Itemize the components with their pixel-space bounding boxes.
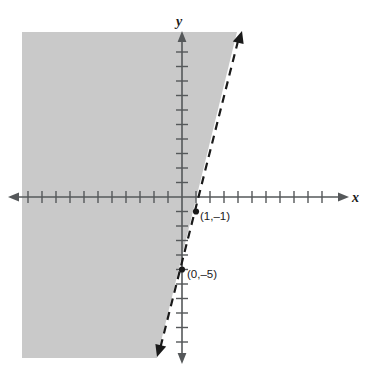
x-axis-label: x bbox=[351, 190, 359, 205]
y-axis-label: y bbox=[174, 14, 183, 29]
point-label-0-neg5: (0,–5) bbox=[187, 268, 217, 280]
x-axis-arrow-right bbox=[338, 193, 349, 202]
x-axis-arrow-left bbox=[8, 193, 19, 202]
boundary-line-arrow-lower bbox=[155, 344, 166, 357]
point-marker-0-neg5 bbox=[179, 266, 185, 272]
graph-canvas: (1,–1) (0,–5) x y bbox=[0, 0, 371, 368]
point-label-1-neg1: (1,–1) bbox=[200, 210, 230, 222]
solution-region-shading bbox=[22, 32, 237, 358]
point-marker-1-neg1 bbox=[193, 208, 199, 214]
y-axis-arrow-bottom bbox=[178, 353, 187, 364]
coordinate-plane-svg: (1,–1) (0,–5) x y bbox=[0, 0, 371, 368]
